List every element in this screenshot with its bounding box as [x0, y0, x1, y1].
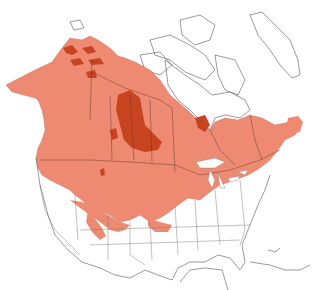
range-map: [0, 0, 322, 290]
north-america-map: [0, 0, 322, 290]
